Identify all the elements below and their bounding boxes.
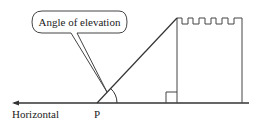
arrow-left-icon	[12, 101, 19, 106]
callout-label: Angle of elevation	[39, 16, 121, 28]
tower	[177, 18, 242, 103]
angle-arc	[111, 89, 117, 104]
horizontal-label: Horizontal	[12, 108, 59, 120]
right-angle-marker	[166, 92, 177, 103]
point-p-label: P	[94, 108, 100, 120]
callout-bubble: Angle of elevation	[32, 11, 127, 92]
angle-of-elevation-diagram: Angle of elevation Horizontal P	[0, 0, 256, 124]
